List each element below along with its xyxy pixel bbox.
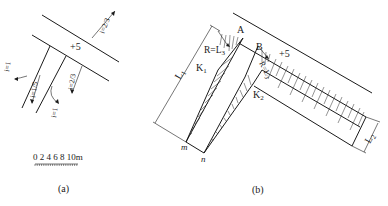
scale-bar-labels: 0 2 4 6 8 10m [33, 152, 83, 162]
dimension-tick [210, 25, 220, 31]
base-line-mn [186, 142, 204, 153]
point-a: A [237, 24, 245, 35]
dimension-label-l2: L2 [362, 131, 378, 146]
slope-strip-hatching [268, 59, 364, 130]
point-m: m [181, 142, 188, 152]
caption-a: (a) [58, 183, 69, 195]
point-k1: K1 [196, 62, 207, 75]
dimension-tick [366, 117, 380, 122]
elevation-label-b: +5 [279, 48, 290, 59]
cone-k1-left [186, 70, 218, 142]
arrowhead-icon [30, 99, 34, 104]
slope-label-branch-right: i=2/3 [66, 73, 78, 90]
dimension-label-l1: L1 [172, 67, 188, 82]
figure-a: +5 i=2/3 i=2/3 i=1/5 i=1 i=1 0 2 4 6 8 1… [2, 11, 119, 195]
figure-b: A B +5 R=L3 R=L3 K1 K2 m n L1 L2 (b) [153, 13, 380, 196]
arrowhead-icon [14, 77, 18, 81]
radius-label-right: R=L3 [256, 60, 273, 80]
slope-label-left-outer: i=1 [2, 61, 13, 73]
slope-strip-lower [254, 86, 352, 146]
dimension-tick [153, 122, 186, 142]
caption-b: (b) [252, 184, 264, 196]
slope-label-main: i=2/3 [98, 16, 112, 34]
branch-right-edge [36, 56, 66, 113]
dimension-tick [352, 146, 366, 153]
road-upper-edge-b [233, 13, 372, 93]
arrowhead-icon [55, 99, 59, 104]
slope-label-branch-left: i=1/5 [28, 81, 40, 98]
point-b: B [256, 41, 263, 52]
slope-strip-upper [262, 70, 360, 127]
elevation-label-a: +5 [70, 41, 81, 52]
point-n: n [201, 154, 206, 164]
cone-k2-arc-edge [253, 70, 262, 84]
slope-label-bottom: i=1 [49, 107, 60, 119]
diagram-canvas: +5 i=2/3 i=2/3 i=1/5 i=1 i=1 0 2 4 6 8 1… [0, 0, 388, 206]
